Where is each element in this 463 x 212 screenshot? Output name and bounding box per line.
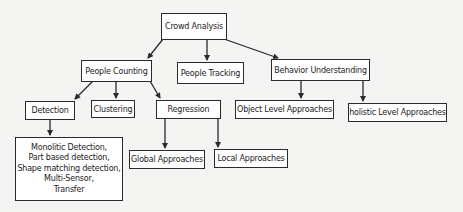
node-label: Global Approaches	[131, 154, 203, 165]
node-people-tracking: People Tracking	[177, 62, 244, 84]
method-line: Shape matching detection,	[17, 164, 120, 175]
node-detection-methods: Monolitic Detection, Part based detectio…	[15, 137, 123, 201]
node-label: Crowd Analysis	[165, 21, 223, 32]
edge-counting-regression	[150, 81, 160, 98]
node-crowd-analysis: Crowd Analysis	[161, 13, 227, 40]
node-label: Behavior Understanding	[274, 65, 367, 76]
node-label: Clustering	[94, 104, 133, 115]
method-line: Transfer	[54, 185, 85, 196]
edge-counting-detection	[75, 81, 93, 99]
method-line: Part based detection,	[28, 153, 109, 164]
node-holistic-level-approaches: holistic Level Approaches	[348, 103, 447, 122]
method-line: Multi-Sensor,	[44, 174, 94, 185]
node-label: Regression	[168, 104, 210, 115]
node-label: Local Approaches	[217, 153, 284, 164]
method-line: Monolitic Detection,	[31, 143, 107, 154]
node-object-level-approaches: Object Level Approaches	[235, 100, 334, 119]
node-detection: Detection	[25, 101, 75, 120]
edge-root-counting	[148, 39, 163, 58]
node-behavior-understanding: Behavior Understanding	[271, 59, 370, 81]
node-label: Detection	[31, 105, 68, 116]
edge-root-behavior	[224, 39, 278, 58]
node-label: People Counting	[85, 66, 147, 77]
node-label: Object Level Approaches	[237, 104, 332, 115]
node-local-approaches: Local Approaches	[214, 149, 288, 168]
node-label: People Tracking	[181, 68, 240, 79]
node-clustering: Clustering	[91, 100, 135, 118]
node-regression: Regression	[156, 100, 221, 119]
node-label: holistic Level Approaches	[349, 107, 446, 118]
node-people-counting: People Counting	[81, 60, 152, 82]
node-global-approaches: Global Approaches	[129, 150, 205, 169]
